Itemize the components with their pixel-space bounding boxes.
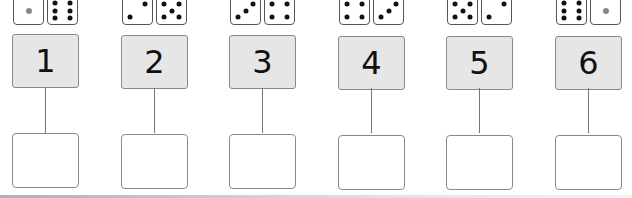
- pip-dot: [284, 1, 289, 6]
- dice-pair: [339, 0, 405, 26]
- dice-pair: [122, 0, 188, 26]
- pip-dot: [67, 8, 72, 13]
- answer-box[interactable]: [229, 134, 296, 189]
- pip-dot: [345, 1, 350, 6]
- pip-dot: [576, 0, 581, 5]
- pip-dot: [501, 1, 506, 6]
- pip-dot: [467, 1, 472, 6]
- problem-column-5: 5: [446, 0, 514, 192]
- connector-line: [45, 88, 46, 133]
- connector-line: [154, 88, 155, 133]
- connector-line: [588, 88, 589, 133]
- die-icon: [156, 0, 187, 25]
- dice-pair: [556, 0, 622, 26]
- die-icon: [447, 0, 478, 25]
- die-icon: [13, 0, 44, 25]
- die-icon: [373, 0, 404, 25]
- die-icon: [264, 0, 295, 25]
- die-icon: [47, 0, 78, 25]
- pip-dot: [162, 1, 167, 6]
- pip-dot: [359, 15, 364, 20]
- dice-pair: [230, 0, 296, 26]
- pip-dot: [576, 16, 581, 21]
- problem-column-3: 3: [229, 0, 297, 192]
- pip-dot: [53, 0, 58, 5]
- number-box: 2: [121, 35, 188, 89]
- pip-dot: [379, 15, 384, 20]
- pip-dot: [453, 15, 458, 20]
- die-icon: [339, 0, 370, 25]
- number-box: 4: [338, 36, 405, 90]
- connector-line: [371, 88, 372, 133]
- pip-dot: [386, 8, 391, 13]
- problem-column-4: 4: [338, 0, 406, 192]
- pip-dot: [67, 0, 72, 5]
- answer-box[interactable]: [12, 133, 79, 188]
- number-box: 5: [446, 36, 513, 90]
- answer-box[interactable]: [338, 135, 405, 190]
- pip-dot: [562, 0, 567, 5]
- pip-dot: [284, 15, 289, 20]
- answer-box[interactable]: [121, 134, 188, 189]
- connector-line: [479, 88, 480, 133]
- die-icon: [590, 0, 621, 25]
- problem-column-6: 6: [555, 0, 623, 192]
- pip-dot: [169, 8, 174, 13]
- dice-pair: [447, 0, 513, 26]
- pip-dot: [359, 1, 364, 6]
- die-icon: [481, 0, 512, 25]
- pip-dot: [460, 8, 465, 13]
- pip-dot: [603, 8, 609, 14]
- pip-dot: [345, 15, 350, 20]
- pip-dot: [176, 15, 181, 20]
- pip-dot: [270, 1, 275, 6]
- connector-line: [262, 88, 263, 133]
- answer-box[interactable]: [555, 135, 622, 190]
- pip-dot: [236, 15, 241, 20]
- pip-dot: [270, 15, 275, 20]
- pip-dot: [162, 15, 167, 20]
- pip-dot: [26, 8, 32, 14]
- pip-dot: [393, 1, 398, 6]
- pip-dot: [453, 1, 458, 6]
- die-icon: [230, 0, 261, 25]
- pip-dot: [142, 1, 147, 6]
- pip-dot: [467, 15, 472, 20]
- die-icon: [556, 0, 587, 25]
- number-box: 3: [229, 35, 296, 89]
- problem-column-2: 2: [121, 0, 189, 192]
- pip-dot: [128, 15, 133, 20]
- bottom-divider: [0, 195, 632, 198]
- dice-pair: [13, 0, 79, 26]
- number-box: 1: [12, 34, 79, 88]
- answer-box[interactable]: [446, 135, 513, 190]
- die-icon: [122, 0, 153, 25]
- pip-dot: [562, 16, 567, 21]
- problem-column-1: 1: [12, 0, 80, 192]
- number-box: 6: [555, 36, 622, 90]
- pip-dot: [487, 15, 492, 20]
- pip-dot: [53, 8, 58, 13]
- pip-dot: [250, 1, 255, 6]
- pip-dot: [67, 16, 72, 21]
- pip-dot: [53, 16, 58, 21]
- pip-dot: [576, 8, 581, 13]
- pip-dot: [562, 8, 567, 13]
- pip-dot: [243, 8, 248, 13]
- pip-dot: [176, 1, 181, 6]
